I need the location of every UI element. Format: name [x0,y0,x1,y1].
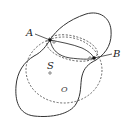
label-a: A [25,27,33,38]
label-s: S [47,60,54,71]
point-b-hollow [89,57,91,59]
point-a [48,38,52,42]
point-b [92,56,96,60]
point-a-hollow [53,41,55,43]
curve-a-to-b [50,40,94,59]
label-b: B [112,48,120,59]
pointer-line-a [35,34,50,40]
curve-a-to-b-upper [50,40,94,58]
geometry-diagram: A B S O [0,0,129,126]
surface-point [49,72,51,74]
label-o: O [61,85,68,94]
